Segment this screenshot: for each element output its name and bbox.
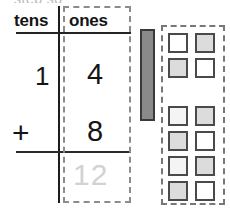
ones-group-four [168,33,215,78]
unit-cube-icon [195,58,215,78]
unit-cube-icon [168,58,188,78]
unit-cube-icon [168,33,188,53]
plus-operator: + [12,118,30,148]
tens-digit-addend-one: 1 [35,63,49,89]
unit-cube-icon [195,156,215,176]
unit-cube-icon [168,106,188,126]
unit-cube-icon [195,106,215,126]
unit-cube-icon [168,156,188,176]
column-divider-rule [58,6,60,203]
tens-column-label: tens [14,12,48,29]
unit-cube-icon [195,33,215,53]
ones-digit-addend-two: 8 [87,117,103,146]
ones-group-eight [168,106,215,201]
ones-column-answer: 12 [73,160,108,190]
ones-digit-addend-one: 4 [87,60,103,89]
unit-cube-icon [195,131,215,151]
unit-cube-icon [195,181,215,201]
unit-cube-icon [168,131,188,151]
worksheet-screen: step so tens ones 1 4 + 8 12 [0,0,230,208]
ten-rod-icon [140,29,155,121]
unit-cube-icon [168,181,188,201]
place-value-chart: tens ones 1 4 + 8 12 [0,0,140,208]
